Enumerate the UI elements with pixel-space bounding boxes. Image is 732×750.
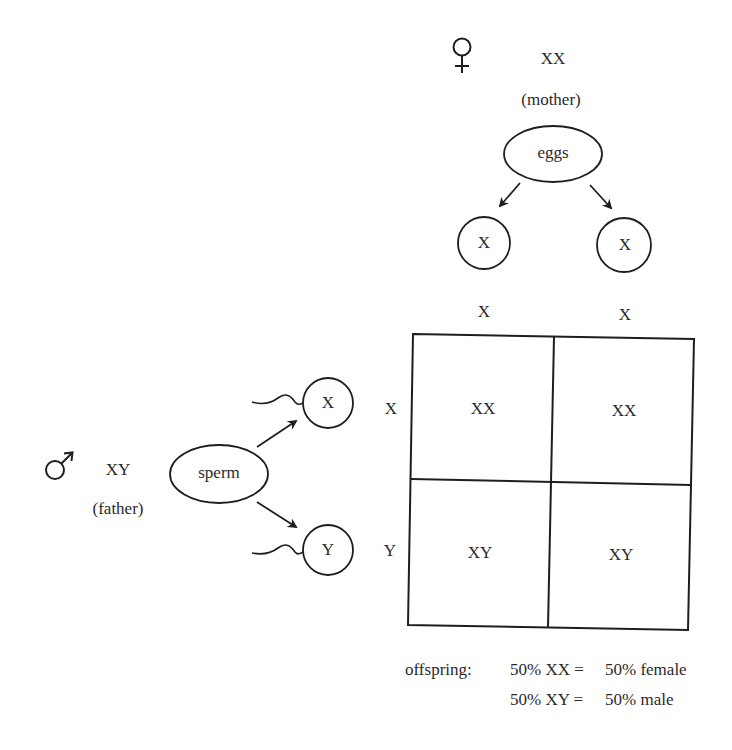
punnett-row-header-1: X: [385, 399, 397, 419]
punnett-col-header-1: X: [478, 302, 490, 322]
father-label: (father): [93, 499, 144, 519]
offspring-label: offspring:: [405, 660, 472, 680]
sperm-label: sperm: [198, 463, 240, 483]
offspring-phenotype-1: 50% female: [605, 660, 687, 680]
mother-genotype: XX: [541, 49, 566, 69]
sperm-gamete-y: Y: [322, 540, 334, 560]
male-symbol-icon: [46, 453, 73, 480]
egg-gamete-left: X: [478, 233, 490, 253]
punnett-grid: [408, 334, 694, 630]
arrow-sperm-down: [257, 502, 296, 527]
offspring-genotype-2: 50% XY =: [510, 690, 583, 710]
offspring-phenotype-2: 50% male: [605, 690, 673, 710]
punnett-row-header-2: Y: [384, 541, 396, 561]
punnett-cell: XX: [612, 401, 637, 421]
arrow-sperm-up: [257, 421, 296, 447]
father-genotype: XY: [106, 460, 131, 480]
offspring-genotype-1: 50% XX =: [510, 660, 584, 680]
mother-label: (mother): [521, 90, 580, 110]
punnett-cell: XY: [609, 545, 634, 565]
eggs-label: eggs: [537, 143, 568, 163]
sperm-x-tail: [252, 395, 303, 404]
sperm-gamete-x: X: [322, 393, 334, 413]
diagram-graphics: [0, 0, 732, 750]
egg-gamete-right: X: [619, 235, 631, 255]
arrow-eggs-left: [500, 183, 520, 206]
punnett-square-diagram: XX (mother) eggs X X XY (father) sperm X…: [0, 0, 732, 750]
punnett-col-header-2: X: [619, 305, 631, 325]
arrow-eggs-right: [590, 185, 611, 208]
sperm-y-tail: [252, 545, 303, 554]
punnett-cell: XY: [468, 543, 493, 563]
female-symbol-icon: [454, 39, 471, 74]
punnett-cell: XX: [471, 399, 496, 419]
